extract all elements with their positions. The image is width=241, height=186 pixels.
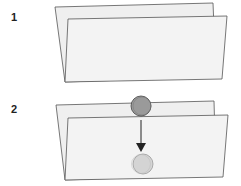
folded-paper-1 bbox=[55, 3, 227, 82]
coin-top-icon bbox=[131, 96, 151, 116]
coin-bottom-icon bbox=[132, 154, 154, 174]
diagram-canvas bbox=[0, 0, 241, 186]
